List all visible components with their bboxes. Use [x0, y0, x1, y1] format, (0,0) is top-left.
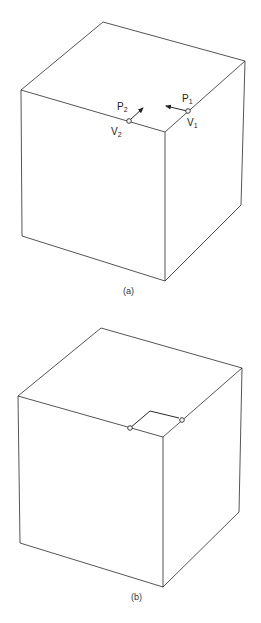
vertex-v1-marker	[186, 109, 191, 114]
vertex-b-right-marker	[180, 418, 185, 423]
arrow-p2	[130, 108, 143, 120]
vertex-b-left-marker	[128, 426, 133, 431]
label-p1: P1	[182, 93, 193, 105]
label-p2: P2	[117, 101, 128, 113]
label-v1: V1	[187, 117, 198, 129]
vertex-v2-marker	[127, 119, 132, 124]
step-path	[130, 411, 179, 428]
label-v2: V2	[111, 126, 122, 138]
arrow-p1	[166, 106, 187, 111]
cube-a	[21, 22, 245, 281]
caption-a: (a)	[123, 286, 134, 296]
diagram-canvas: P2 P1 V2 V1 (a) (b)	[0, 0, 261, 623]
cube-b	[18, 328, 242, 587]
caption-b: (b)	[131, 592, 142, 602]
